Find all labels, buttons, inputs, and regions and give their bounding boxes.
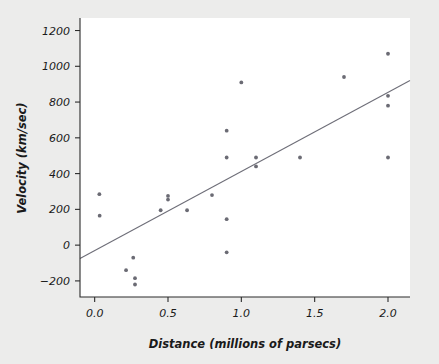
data-point xyxy=(239,80,243,84)
y-tick-label: 0 xyxy=(63,239,70,252)
data-point xyxy=(210,193,214,197)
x-axis-title: Distance (millions of parsecs) xyxy=(149,337,341,351)
data-point xyxy=(131,256,135,260)
y-axis-title: Velocity (km/sec) xyxy=(15,102,29,213)
data-point xyxy=(225,250,229,254)
data-point xyxy=(166,198,170,202)
hubble-diagram-figure: 0.00.51.01.52.0 −20002004006008001000120… xyxy=(0,0,439,364)
data-point xyxy=(225,217,229,221)
data-point xyxy=(342,75,346,79)
data-point xyxy=(166,194,170,198)
y-axis-ticks: −200020040060080010001200 xyxy=(40,25,80,288)
data-point xyxy=(185,208,189,212)
y-tick-label: 600 xyxy=(49,132,70,145)
x-axis-ticks: 0.00.51.01.52.0 xyxy=(86,297,397,320)
data-point xyxy=(386,52,390,56)
data-point xyxy=(386,104,390,108)
data-point xyxy=(98,214,102,218)
x-tick-label: 0.5 xyxy=(159,307,177,320)
y-tick-label: 200 xyxy=(49,203,70,216)
data-point xyxy=(133,283,137,287)
x-tick-label: 2.0 xyxy=(379,307,397,320)
x-tick-label: 0.0 xyxy=(86,307,104,320)
data-point xyxy=(124,268,128,272)
data-point xyxy=(133,276,137,280)
x-tick-label: 1.0 xyxy=(233,307,251,320)
data-point xyxy=(159,208,163,212)
data-point xyxy=(298,156,302,160)
data-point xyxy=(386,94,390,98)
x-tick-label: 1.5 xyxy=(306,307,324,320)
y-tick-label: −200 xyxy=(40,275,70,288)
y-tick-label: 1200 xyxy=(42,25,70,38)
plot-area-background xyxy=(80,18,410,297)
data-point xyxy=(225,156,229,160)
data-point xyxy=(97,192,101,196)
data-point xyxy=(254,165,258,169)
scatter-plot-svg: 0.00.51.01.52.0 −20002004006008001000120… xyxy=(0,0,439,364)
data-point xyxy=(225,129,229,133)
y-tick-label: 800 xyxy=(49,96,70,109)
data-point xyxy=(386,156,390,160)
data-point xyxy=(254,156,258,160)
y-tick-label: 1000 xyxy=(42,60,70,73)
y-tick-label: 400 xyxy=(49,168,70,181)
